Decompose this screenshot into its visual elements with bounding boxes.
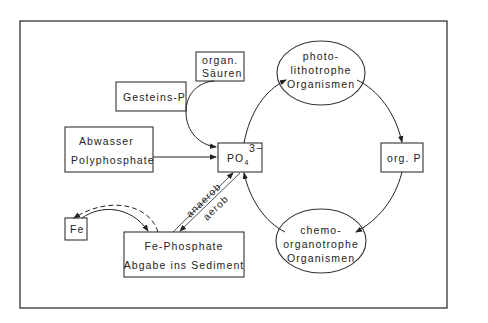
edge-po4-to-photo [244, 80, 286, 143]
organ-saeuren-line2: Säuren [202, 67, 242, 79]
photo-line1: photo- [303, 50, 339, 62]
edge-photo-to-orgp [357, 80, 402, 142]
organ-saeuren-line1: organ. [202, 54, 238, 66]
chemo-line1: chemo- [300, 224, 342, 236]
node-fe-phosphate: Fe-Phosphate Abgabe ins Sediment [124, 232, 245, 277]
node-abwasser: Abwasser Polyphosphate [65, 127, 155, 172]
org-p-label: org. P [387, 152, 422, 164]
chemo-line3: Organismen [287, 252, 355, 264]
phosphorus-cycle-diagram: organ. Säuren Gesteins-P Abwasser Polyph… [0, 0, 488, 323]
chemo-line2: organotrophe [283, 238, 359, 250]
node-gesteins-p: Gesteins-P [116, 82, 186, 111]
edge-orgp-to-chemo [356, 172, 402, 232]
fe-phosphate-line2: Abgabe ins Sediment [124, 259, 245, 271]
abwasser-line2: Polyphosphate [71, 154, 155, 166]
node-org-p: org. P [381, 143, 423, 172]
node-photo-lithotrophe: photo- lithotrophe Organismen [277, 41, 365, 105]
po4-subscript: 4 [244, 159, 249, 166]
node-organ-saeuren: organ. Säuren [196, 52, 244, 81]
edge-fe-to-fephosphate [82, 209, 148, 231]
node-fe: Fe [65, 218, 87, 240]
photo-line3: Organismen [287, 78, 355, 90]
fe-phosphate-line1: Fe-Phosphate [144, 240, 223, 252]
photo-line2: lithotrophe [290, 64, 351, 76]
po4-superscript: 3− [249, 142, 263, 154]
edge-gesteins-to-po4 [186, 81, 216, 147]
fe-label: Fe [70, 223, 84, 235]
edge-aerob [180, 173, 240, 231]
edge-chemo-to-po4 [244, 173, 285, 232]
node-chemo-organotrophe: chemo- organotrophe Organismen [276, 209, 366, 273]
po4-label: PO [227, 152, 244, 164]
gesteins-p-label: Gesteins-P [123, 91, 186, 103]
node-po4: PO4 3− [218, 142, 263, 172]
abwasser-line1: Abwasser [79, 135, 134, 147]
